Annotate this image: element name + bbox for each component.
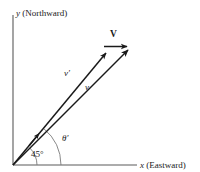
x-axis-name: (Eastward) bbox=[146, 160, 185, 170]
vector-v-line bbox=[13, 50, 128, 165]
x-axis-label: x (Eastward) bbox=[140, 161, 186, 170]
vector-v-label: v bbox=[85, 83, 89, 92]
vector-v-prime-label: v′ bbox=[64, 69, 70, 78]
diagram-canvas bbox=[0, 0, 200, 172]
y-axis-label: y (Northward) bbox=[16, 9, 67, 18]
angle-theta-prime-arc bbox=[44, 129, 61, 166]
angle-45-label: 45° bbox=[31, 150, 44, 159]
vector-v-prime-line bbox=[13, 53, 106, 165]
vector-diagram-figure: y (Northward) x (Eastward) v′ v V 45° θ′ bbox=[0, 0, 200, 172]
vector-V-label: V bbox=[110, 30, 117, 40]
y-axis-name: (Northward) bbox=[22, 8, 67, 18]
angle-theta-prime-label: θ′ bbox=[62, 134, 68, 143]
